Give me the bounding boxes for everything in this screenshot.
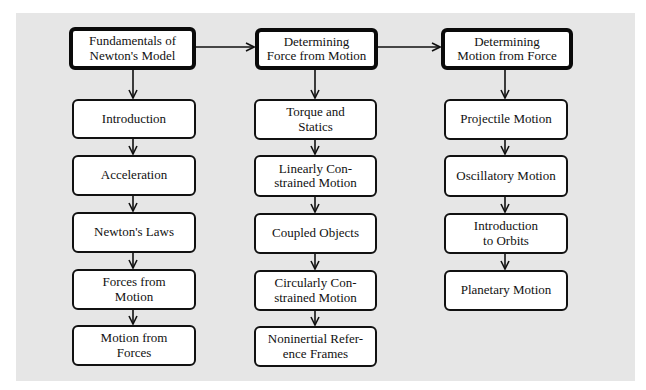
header-fundamentals-of-newtons-model: Fundamentals of Newton's Model bbox=[69, 27, 196, 70]
box-text-line1: Acceleration bbox=[101, 168, 167, 183]
box-text-line1: Circularly Con- bbox=[275, 276, 357, 291]
box-text-line1: Introduction bbox=[102, 112, 166, 127]
box-text-line1: Torque and bbox=[286, 105, 345, 120]
box-text-line1: Linearly Con- bbox=[279, 162, 352, 177]
box-text-line2: ence Frames bbox=[283, 347, 348, 362]
box-oscillatory-motion: Oscillatory Motion bbox=[444, 155, 568, 197]
box-circularly-constrained-motion: Circularly Con- strained Motion bbox=[254, 270, 377, 311]
box-projectile-motion: Projectile Motion bbox=[444, 99, 568, 140]
box-text-line1: Fundamentals of bbox=[89, 34, 176, 49]
box-text-line1: Determining bbox=[284, 35, 350, 50]
box-newtons-laws: Newton's Laws bbox=[72, 212, 196, 253]
box-text-line2: to Orbits bbox=[483, 234, 529, 249]
box-motion-from-forces: Motion from Forces bbox=[72, 325, 196, 366]
box-text-line1: Motion from bbox=[101, 331, 168, 346]
box-text-line2: Forces bbox=[117, 346, 152, 361]
box-text-line2: Newton's Model bbox=[90, 49, 176, 64]
box-planetary-motion: Planetary Motion bbox=[444, 270, 568, 311]
box-text-line2: Motion from Force bbox=[457, 49, 557, 64]
box-linearly-constrained-motion: Linearly Con- strained Motion bbox=[254, 155, 377, 197]
box-text-line1: Noninertial Refer- bbox=[268, 332, 363, 347]
box-acceleration: Acceleration bbox=[72, 155, 196, 196]
header-determining-motion-from-force: Determining Motion from Force bbox=[441, 28, 573, 70]
box-text-line1: Determining bbox=[474, 35, 540, 50]
header-determining-force-from-motion: Determining Force from Motion bbox=[255, 28, 378, 70]
box-introduction-to-orbits: Introduction to Orbits bbox=[444, 213, 568, 254]
box-text-line2: Motion bbox=[115, 290, 153, 305]
box-text-line1: Newton's Laws bbox=[94, 225, 174, 240]
box-text-line1: Forces from bbox=[102, 275, 165, 290]
box-text-line2: Statics bbox=[298, 120, 333, 135]
box-text-line1: Introduction bbox=[474, 219, 538, 234]
box-text-line1: Coupled Objects bbox=[272, 226, 359, 241]
box-noninertial-reference-frames: Noninertial Refer- ence Frames bbox=[254, 326, 377, 367]
box-text-line1: Oscillatory Motion bbox=[456, 169, 555, 184]
box-introduction: Introduction bbox=[72, 99, 196, 139]
box-text-line1: Planetary Motion bbox=[461, 283, 552, 298]
box-coupled-objects: Coupled Objects bbox=[254, 213, 377, 254]
box-forces-from-motion: Forces from Motion bbox=[72, 269, 196, 310]
box-text-line2: strained Motion bbox=[274, 291, 357, 306]
box-torque-and-statics: Torque and Statics bbox=[254, 99, 377, 140]
box-text-line2: strained Motion bbox=[274, 176, 357, 191]
box-text-line1: Projectile Motion bbox=[460, 112, 551, 127]
box-text-line2: Force from Motion bbox=[267, 49, 367, 64]
